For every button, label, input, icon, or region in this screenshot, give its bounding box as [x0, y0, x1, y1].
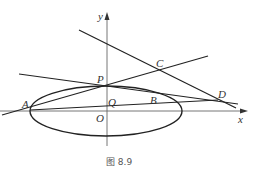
point-label-a: A	[21, 98, 29, 110]
point-label-c: C	[156, 57, 164, 69]
line-a-q-d	[30, 100, 218, 110]
origin-label: O	[96, 112, 104, 124]
point-label-p: P	[96, 73, 104, 85]
point-label-q: Q	[108, 96, 116, 108]
ellipse-diagram: y x O P Q A B C D 图 8.9	[0, 0, 256, 174]
point-label-d: D	[217, 88, 226, 100]
y-axis-label: y	[97, 10, 103, 22]
figure-caption: 图 8.9	[106, 157, 132, 167]
y-axis-arrow-icon	[105, 12, 110, 20]
line-c-d	[79, 30, 236, 108]
x-axis-label: x	[237, 113, 243, 125]
point-label-b: B	[150, 94, 157, 106]
